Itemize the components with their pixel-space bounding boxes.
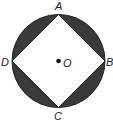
center-point-dot	[56, 59, 61, 64]
label-a: A	[54, 0, 62, 12]
label-o: O	[63, 57, 72, 69]
diagram-canvas: A B C D O	[0, 0, 113, 121]
label-c: C	[54, 110, 62, 121]
label-d: D	[1, 56, 9, 68]
label-b: B	[106, 56, 113, 68]
